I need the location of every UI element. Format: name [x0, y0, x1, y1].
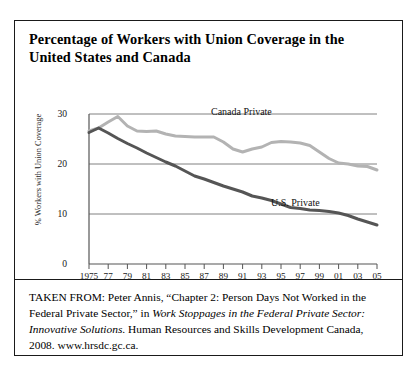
y-tick-label-20: 20 [45, 158, 67, 169]
y-tick-label-30: 30 [45, 108, 67, 119]
series-label-canada-private: Canada Private [211, 106, 272, 117]
series-line-canada-private [89, 117, 377, 171]
x-axis-tick-marks [89, 264, 377, 269]
series-label-us-private: U.S. Private [271, 197, 320, 208]
series-line-us-private [89, 128, 377, 225]
y-tick-label-0: 0 [45, 258, 67, 269]
y-axis-title: % Workers with Union Coverage [34, 105, 43, 235]
figure-page: Percentage of Workers with Union Coverag… [0, 0, 417, 377]
source-note: TAKEN FROM: Peter Annis, “Chapter 2: Per… [29, 289, 387, 353]
y-tick-label-10: 10 [45, 208, 67, 219]
figure-box: Percentage of Workers with Union Coverag… [14, 20, 403, 356]
chart-area: % Workers with Union Coverage 30 20 10 0 [15, 81, 402, 283]
divider [15, 279, 402, 280]
page-title: Percentage of Workers with Union Coverag… [29, 30, 381, 66]
